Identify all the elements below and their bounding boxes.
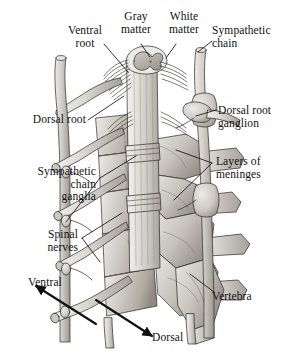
label-ventral-root: Ventral root xyxy=(60,24,110,49)
label-white-matter: White matter xyxy=(158,10,210,35)
spinal-cord-diagram: Ventral root Gray matter White matter Sy… xyxy=(0,0,287,354)
label-sympathetic-chain-ganglia: Sympathetic chain ganglia xyxy=(6,165,96,203)
label-vertebra: Vertebra xyxy=(212,290,282,303)
label-layers-of-meninges: Layers of meninges xyxy=(216,155,286,180)
label-gray-matter: Gray matter xyxy=(110,10,162,35)
label-spinal-nerves: Spinal nerves xyxy=(6,228,78,253)
label-dorsal-root: Dorsal root xyxy=(6,113,86,126)
label-dorsal-root-ganglion: Dorsal root ganglion xyxy=(218,104,287,129)
label-sympathetic-chain: Sympathetic chain xyxy=(212,24,287,49)
label-dorsal: Dorsal xyxy=(152,331,212,344)
label-ventral: Ventral xyxy=(28,276,88,289)
